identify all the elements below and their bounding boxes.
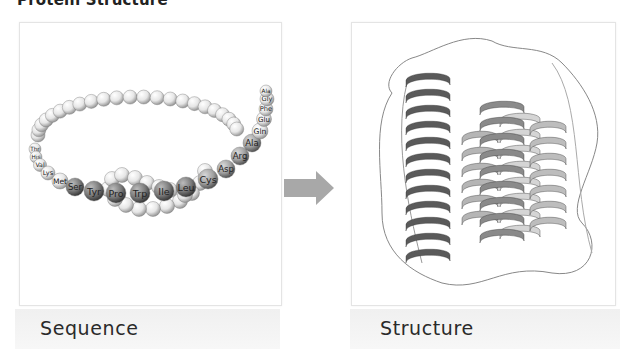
svg-text:Tyr: Tyr xyxy=(86,186,101,197)
page-title: Protein Structure xyxy=(17,0,168,9)
structure-caption: Structure xyxy=(380,317,474,339)
svg-text:Gln: Gln xyxy=(254,127,267,136)
sequence-panel: ThrHisValLysMetSerTyrProTrpIleLeuCysAspA… xyxy=(19,22,282,306)
svg-text:Pro: Pro xyxy=(108,188,123,199)
svg-text:Ala: Ala xyxy=(245,138,258,148)
svg-text:Glu: Glu xyxy=(258,115,270,124)
right-arrow-icon xyxy=(284,171,336,209)
svg-text:Cys: Cys xyxy=(199,174,216,185)
svg-text:Ala: Ala xyxy=(262,88,271,94)
bead-chain-illustration: ThrHisValLysMetSerTyrProTrpIleLeuCysAspA… xyxy=(20,23,281,305)
svg-text:Leu: Leu xyxy=(178,182,195,193)
sequence-caption: Sequence xyxy=(40,317,139,339)
structure-panel xyxy=(351,22,616,306)
helix-structure-illustration xyxy=(352,23,615,305)
svg-text:Met: Met xyxy=(53,177,67,186)
sequence-caption-bar: Sequence xyxy=(15,309,280,349)
svg-text:Ile: Ile xyxy=(158,186,169,197)
svg-text:Arg: Arg xyxy=(233,151,248,161)
svg-text:Trp: Trp xyxy=(132,188,147,199)
svg-text:Ser: Ser xyxy=(68,182,83,192)
svg-text:Phe: Phe xyxy=(260,105,272,113)
svg-text:Asp: Asp xyxy=(218,164,234,174)
structure-caption-bar: Structure xyxy=(350,309,620,349)
svg-text:Val: Val xyxy=(35,161,45,168)
